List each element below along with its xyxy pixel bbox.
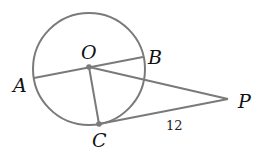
geometry-diagram: O B A C P 12 [0, 0, 261, 156]
label-o: O [81, 41, 97, 63]
label-b: B [147, 46, 162, 68]
segment-cp [99, 99, 228, 124]
label-a: A [11, 74, 27, 96]
segment-oc [89, 67, 99, 124]
length-label-cp: 12 [166, 118, 183, 133]
label-p: P [237, 90, 252, 112]
point-c [96, 121, 102, 127]
label-c: C [92, 129, 107, 151]
point-o [86, 64, 92, 70]
segment-op [89, 67, 228, 99]
